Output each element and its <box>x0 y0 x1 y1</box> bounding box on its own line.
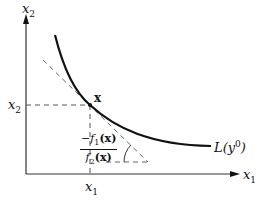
curve-label-close: ) <box>241 140 246 155</box>
curve-label: L(y0) <box>214 140 246 154</box>
numerator-func: −f <box>81 132 94 145</box>
point-label: x <box>94 92 101 104</box>
slope-angle-arc <box>124 145 131 162</box>
curve-label-text: L(y <box>214 140 235 155</box>
x-axis-label: x1 <box>243 168 256 185</box>
numerator-arg: (x) <box>99 132 116 145</box>
isoquant-curve <box>55 35 211 146</box>
x1-tick-label: x1 <box>85 180 98 197</box>
slope-numerator: −f1(x) <box>80 133 117 150</box>
x2-tick-sub: 2 <box>15 105 21 115</box>
denominator-arg: (x) <box>95 151 112 164</box>
slope-denominator: f2(x) <box>80 150 117 166</box>
x-axis-arrow-icon <box>230 171 240 177</box>
tangency-point <box>88 103 92 107</box>
x1-tick-sub: 1 <box>92 187 98 197</box>
diagram-graphics <box>0 0 264 202</box>
isoquant-diagram: x2 x1 x2 x1 x L(y0) −f1(x) f2(x) <box>0 0 264 202</box>
x-axis-label-sub: 1 <box>250 175 256 185</box>
y-axis-label-sub: 2 <box>29 9 35 19</box>
slope-fraction: −f1(x) f2(x) <box>80 133 117 166</box>
x2-tick-label: x2 <box>8 98 21 115</box>
y-axis-label: x2 <box>22 2 35 19</box>
